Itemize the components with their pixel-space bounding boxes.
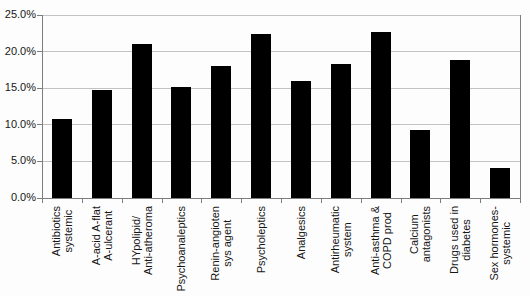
y-axis-label: 20.0%	[0, 45, 36, 58]
x-axis-tick	[281, 199, 282, 203]
bar-chart: 0.0%5.0%10.0%15.0%20.0%25.0%Antibioticss…	[0, 0, 530, 296]
x-axis-label: A-acid A-flatA-ulcerant	[89, 206, 115, 294]
x-axis-label: Sex hormones-systemic	[487, 206, 513, 294]
y-axis-label: 25.0%	[0, 8, 36, 21]
gridline	[42, 161, 520, 162]
bar	[371, 32, 391, 198]
bar	[211, 66, 231, 198]
x-axis-label-line: antagonists	[420, 206, 433, 262]
x-axis-label-line: systemic	[500, 206, 513, 281]
x-axis-label-line: Drugs used in	[448, 206, 461, 274]
x-axis-label-line: Anti-asthma &	[368, 206, 381, 275]
x-axis-label-text: HYpolipid/Anti-atheroma	[129, 206, 154, 275]
x-axis-label-line: Sex hormones-	[488, 206, 501, 281]
gridline	[42, 51, 520, 52]
x-axis-label-line: Analgesics	[295, 206, 308, 259]
bar	[331, 64, 351, 198]
x-axis-tick	[480, 199, 481, 203]
x-axis-label-line: Renin-angioten	[209, 206, 222, 281]
x-axis-label-line: system	[341, 206, 354, 273]
x-axis-label-text: Antirheumaticsystem	[328, 206, 353, 273]
x-axis-tick	[201, 199, 202, 203]
bar	[291, 81, 311, 198]
x-axis-label-text: Analgesics	[295, 206, 308, 259]
x-axis-label-line: sys agent	[221, 206, 234, 281]
y-axis-line	[42, 15, 43, 199]
x-axis-label-line: COPD prod	[381, 206, 394, 275]
x-axis-label-line: Antibiotics	[49, 206, 62, 256]
x-axis-label-line: Calcium	[408, 206, 421, 262]
x-axis-tick	[520, 199, 521, 203]
x-axis-label-text: Sex hormones-systemic	[488, 206, 513, 281]
gridline	[42, 124, 520, 125]
x-axis-label-line: Anti-atheroma	[142, 206, 155, 275]
x-axis-label-line: diabetes	[460, 206, 473, 274]
x-axis-label: Psycholeptics	[248, 206, 274, 294]
gridline	[42, 15, 520, 16]
bar	[52, 119, 72, 198]
bar	[132, 44, 152, 198]
x-axis-label-line: A-ulcerant	[102, 206, 115, 265]
x-axis-label-text: Antibioticssystemic	[49, 206, 74, 256]
gridline	[42, 88, 520, 89]
y-axis-label: 0.0%	[0, 191, 36, 204]
x-axis-label-text: Anti-asthma &COPD prod	[368, 206, 393, 275]
x-axis-label: Antibioticssystemic	[49, 206, 75, 294]
bar	[171, 87, 191, 198]
y-axis-label: 5.0%	[0, 154, 36, 167]
x-axis-label-line: HYpolipid/	[129, 206, 142, 275]
x-axis-tick	[42, 199, 43, 203]
bar	[450, 60, 470, 198]
x-axis-tick	[440, 199, 441, 203]
x-axis-label: Analgesics	[288, 206, 314, 294]
x-axis-label-line: Antirheumatic	[328, 206, 341, 273]
x-axis-label-text: A-acid A-flatA-ulcerant	[89, 206, 114, 265]
x-axis-label-text: Drugs used indiabetes	[448, 206, 473, 274]
x-axis-label-text: Calciumantagonists	[408, 206, 433, 262]
x-axis-tick	[401, 199, 402, 203]
x-axis-tick	[162, 199, 163, 203]
bar	[92, 90, 112, 198]
x-axis-label: Anti-asthma &COPD prod	[368, 206, 394, 294]
x-axis-label: HYpolipid/Anti-atheroma	[129, 206, 155, 294]
x-axis-tick	[321, 199, 322, 203]
plot-right-border	[520, 15, 521, 199]
x-axis-label-line: Psychoanaleptics	[175, 206, 188, 292]
x-axis-label: Antirheumaticsystem	[328, 206, 354, 294]
bar	[251, 34, 271, 198]
x-axis-label-line: systemic	[62, 206, 75, 256]
x-axis-label-text: Renin-angiotensys agent	[209, 206, 234, 281]
x-axis-label-text: Psychoanaleptics	[175, 206, 188, 292]
x-axis-label-line: A-acid A-flat	[89, 206, 102, 265]
x-axis-label: Psychoanaleptics	[168, 206, 194, 294]
x-axis-tick	[361, 199, 362, 203]
x-axis-label-text: Psycholeptics	[255, 206, 268, 273]
x-axis-label-line: Psycholeptics	[255, 206, 268, 273]
x-axis-label: Drugs used indiabetes	[447, 206, 473, 294]
bar	[490, 168, 510, 198]
x-axis-label: Calciumantagonists	[407, 206, 433, 294]
x-axis-label: Renin-angiotensys agent	[208, 206, 234, 294]
y-axis-label: 15.0%	[0, 81, 36, 94]
bar	[410, 130, 430, 198]
x-axis-tick	[82, 199, 83, 203]
x-axis-tick	[241, 199, 242, 203]
y-axis-label: 10.0%	[0, 118, 36, 131]
x-axis-tick	[122, 199, 123, 203]
